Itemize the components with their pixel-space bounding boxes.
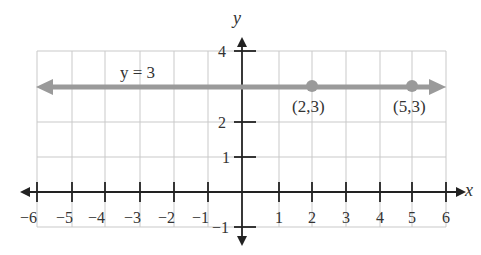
point-label-5-3: (5,3) xyxy=(393,97,426,116)
x-tick-labels: −6 −5 −4 −3 −2 −1 1 2 3 4 5 6 xyxy=(20,209,450,226)
point-2-3 xyxy=(306,80,318,92)
arrow-down-icon xyxy=(237,236,247,246)
svg-text:6: 6 xyxy=(442,209,450,226)
svg-text:4: 4 xyxy=(218,43,226,60)
point-label-2-3: (2,3) xyxy=(292,97,325,116)
svg-text:2: 2 xyxy=(308,209,316,226)
line-y-equals-3 xyxy=(36,79,446,95)
arrow-right-icon xyxy=(429,79,446,95)
coordinate-plane: y = 3 (2,3) (5,3) y x 4 2 1 −1 −6 −5 −4 … xyxy=(0,0,481,255)
svg-text:4: 4 xyxy=(376,209,384,226)
svg-text:−4: −4 xyxy=(88,209,105,226)
x-axis-label: x xyxy=(464,180,473,200)
svg-text:−1: −1 xyxy=(192,209,209,226)
y-axis-label: y xyxy=(231,8,241,28)
y-tick-labels: 4 2 1 −1 xyxy=(212,43,230,236)
svg-text:−1: −1 xyxy=(212,219,229,236)
line-label: y = 3 xyxy=(120,63,155,82)
svg-text:1: 1 xyxy=(222,149,230,166)
svg-text:2: 2 xyxy=(218,114,226,131)
svg-text:3: 3 xyxy=(342,209,350,226)
arrow-left-icon xyxy=(36,79,53,95)
svg-text:5: 5 xyxy=(408,209,416,226)
svg-text:−2: −2 xyxy=(158,209,175,226)
arrow-up-icon xyxy=(237,37,247,47)
svg-text:1: 1 xyxy=(275,209,283,226)
x-axis xyxy=(20,182,466,202)
arrow-left-icon xyxy=(20,187,30,197)
svg-text:−3: −3 xyxy=(124,209,141,226)
point-5-3 xyxy=(406,80,418,92)
y-axis xyxy=(234,37,256,246)
svg-text:−6: −6 xyxy=(20,209,37,226)
svg-text:−5: −5 xyxy=(56,209,73,226)
